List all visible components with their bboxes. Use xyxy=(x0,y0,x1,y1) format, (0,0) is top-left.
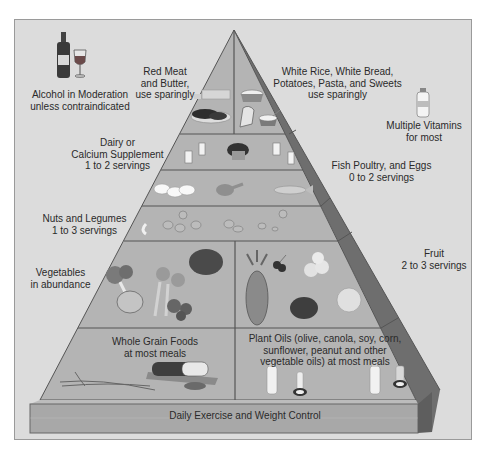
white-rice-label: White Rice, White Bread, Potatoes, Pasta… xyxy=(270,66,405,101)
cabbage-icon xyxy=(117,291,143,313)
wine-bottle-icon xyxy=(57,32,70,78)
nuts-legumes-label: Nuts and Legumes 1 to 3 servings xyxy=(42,213,127,236)
grapes-icon xyxy=(290,297,318,319)
tomato-icon xyxy=(189,249,223,275)
vegetables-label: Vegetables in abundance xyxy=(28,267,93,290)
plant-oils-label: Plant Oils (olive, canola, soy, corn, su… xyxy=(245,333,405,368)
rice-bowl-icon xyxy=(241,90,263,102)
alcohol-label: Alcohol in Moderation unless contraindic… xyxy=(20,89,140,112)
red-meat-label: Red Meat and Butter, use sparingly xyxy=(130,66,200,101)
base-slab-top xyxy=(30,400,418,404)
fish-poultry-eggs-label: Fish Poultry, and Eggs 0 to 2 servings xyxy=(324,160,439,183)
whole-grains-label: Whole Grain Foods at most meals xyxy=(100,336,210,359)
orange-icon xyxy=(337,288,361,312)
vitamins-label: Multiple Vitamins for most xyxy=(384,120,464,143)
wine-glass-icon xyxy=(74,50,86,78)
dairy-label: Dairy or Calcium Supplement 1 to 2 servi… xyxy=(60,137,175,172)
fruit-label: Fruit 2 to 3 servings xyxy=(394,248,474,271)
base-label: Daily Exercise and Weight Control xyxy=(120,410,370,422)
vitamin-bottle-icon xyxy=(417,88,429,117)
